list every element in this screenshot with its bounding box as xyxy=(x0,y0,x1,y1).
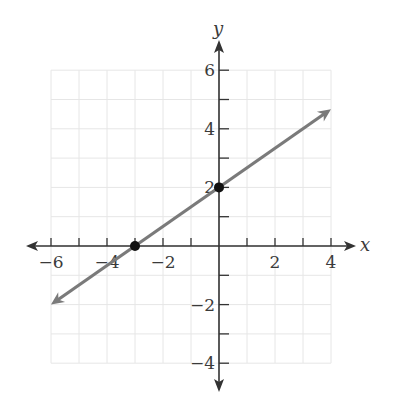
x-axis-label: x xyxy=(360,234,370,255)
y-tick-label: −2 xyxy=(190,295,215,315)
x-tick-label: 2 xyxy=(270,252,281,272)
y-tick-label: 6 xyxy=(204,60,215,80)
coordinate-plane: −6−4−224642−2−4 y x xyxy=(0,0,396,412)
x-tick-label: −4 xyxy=(94,252,119,272)
x-tick-label: 4 xyxy=(326,252,337,272)
line-arrow-start-icon xyxy=(51,292,65,304)
x-tick-label: −6 xyxy=(38,252,63,272)
y-tick-label: −4 xyxy=(190,353,215,373)
y-tick-label: 4 xyxy=(204,119,215,139)
y-intercept-point xyxy=(214,182,224,192)
line-arrow-end-icon xyxy=(317,109,331,121)
grid xyxy=(51,70,331,363)
x-tick-label: −2 xyxy=(150,252,175,272)
x-intercept-point xyxy=(130,241,140,251)
y-axis-label: y xyxy=(212,18,224,39)
